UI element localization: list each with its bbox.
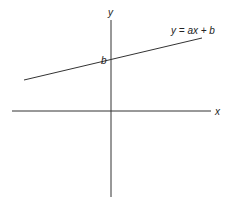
linear-function-line	[24, 38, 202, 80]
x-axis-label: x	[214, 106, 221, 117]
y-intercept-label: b	[101, 55, 107, 66]
linear-function-diagram: y x b y = ax + b	[0, 0, 233, 207]
y-axis-label: y	[107, 7, 114, 18]
equation-label: y = ax + b	[170, 25, 215, 36]
